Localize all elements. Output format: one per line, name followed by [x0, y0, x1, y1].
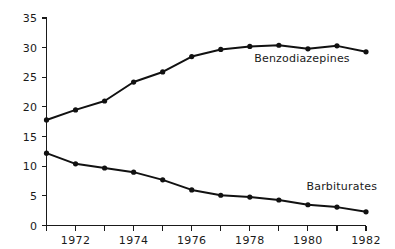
series-annotation-label: Barbiturates	[306, 180, 377, 193]
series-annotation-group: BenzodiazepinesBarbiturates	[254, 52, 377, 192]
false	[73, 107, 78, 112]
series-annotation-label: Benzodiazepines	[254, 52, 350, 65]
line-chart: 05101520253035 197219741976197819801982 …	[0, 0, 395, 249]
y-tick-label: 0	[30, 220, 37, 233]
y-tick-label: 20	[23, 101, 38, 114]
x-tick-label: 1978	[235, 234, 265, 247]
false	[218, 47, 223, 52]
false	[363, 209, 368, 214]
chart-plot-area: 05101520253035 197219741976197819801982 …	[0, 0, 395, 249]
false	[305, 46, 310, 51]
false	[363, 49, 368, 54]
false	[247, 44, 252, 49]
x-tick-label: 1972	[61, 234, 91, 247]
x-tick-label: 1982	[351, 234, 381, 247]
false	[218, 193, 223, 198]
false	[44, 117, 49, 122]
y-tick-label: 35	[23, 12, 38, 25]
false	[305, 202, 310, 207]
x-tick-label: 1976	[177, 234, 207, 247]
y-tick-label: 30	[23, 42, 38, 55]
false	[189, 54, 194, 59]
false	[334, 205, 339, 210]
y-tick-label: 15	[23, 131, 38, 144]
y-tick-label: 5	[30, 190, 37, 203]
x-tick-label: 1980	[293, 234, 323, 247]
false	[334, 43, 339, 48]
false	[276, 197, 281, 202]
y-tick-label-group: 05101520253035	[23, 12, 38, 233]
false	[189, 187, 194, 192]
false	[73, 161, 78, 166]
false	[102, 98, 107, 103]
false	[131, 79, 136, 84]
x-tick-label-group: 197219741976197819801982	[61, 234, 381, 247]
y-tick-label: 25	[23, 71, 38, 84]
y-tick-label: 10	[23, 160, 38, 173]
false	[160, 69, 165, 74]
false	[160, 177, 165, 182]
x-tick-group	[47, 226, 367, 231]
false	[276, 43, 281, 48]
false	[131, 170, 136, 175]
axes-group	[47, 18, 367, 226]
false	[44, 151, 49, 156]
false	[102, 165, 107, 170]
x-tick-label: 1974	[119, 234, 149, 247]
false	[247, 194, 252, 199]
